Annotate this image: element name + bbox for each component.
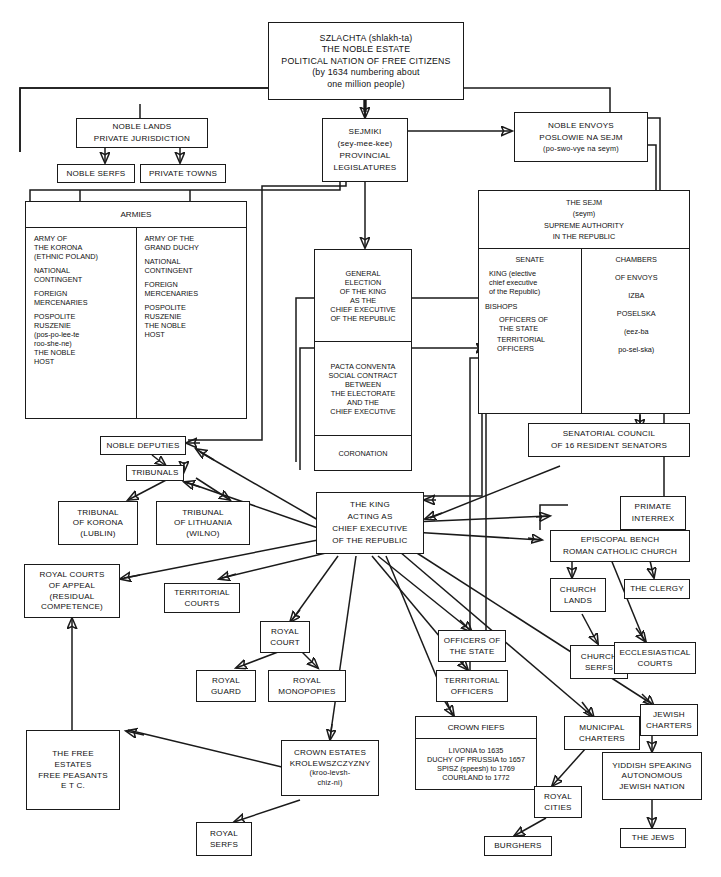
node-royal-guard: ROYAL GUARD (196, 670, 256, 702)
tribunal-lithuania-line-2: OF LITHUANIA (174, 518, 232, 528)
royal-court-line-2: COURT (270, 638, 300, 648)
army-grand-duchy-line-5: CONTINGENT (145, 266, 193, 275)
node-officers-of-the-state: OFFICERS OF THE STATE (438, 630, 506, 662)
node-the-clergy: THE CLERGY (624, 579, 690, 599)
army-korona-line-14: roo-she-ne) (34, 339, 72, 348)
army-korona-line-1: ARMY OF (34, 234, 67, 243)
sejmiki-line-2: (sey-mee-kee) (338, 139, 393, 149)
noble-envoys-line-1: NOBLE ENVOYS (548, 121, 614, 131)
sejm-chambers-column: CHAMBERSOF ENVOYSIZBAPOSELSKA(eez-bapo-s… (581, 249, 690, 413)
army-grand-duchy-line-8: MERCENARIES (145, 289, 199, 298)
sejm-chambers-line-4: POSELSKA (617, 309, 656, 318)
senate-territorial-officers-line-2: OFFICERS (497, 344, 534, 353)
node-royal-cities: ROYAL CITIES (534, 786, 582, 818)
ecclesiastical-courts-line-2: COURTS (637, 659, 672, 669)
army-grand-duchy-line-4: NATIONAL (145, 257, 181, 266)
royal-courts-appeal-line-1: ROYAL COURTS (39, 570, 104, 580)
crown-estates-line-3: (kroo-levsh- (310, 769, 351, 778)
armies-header: ARMIES (26, 202, 246, 228)
pacta-conventa-line-6: CHIEF EXECUTIVE (330, 407, 395, 416)
general-election-section: GENERALELECTIONOF THE KINGAS THECHIEF EX… (315, 250, 411, 342)
node-noble-envoys: NOBLE ENVOYS POSLOWIE NA SEJM (po-swo-vy… (514, 112, 648, 162)
node-territorial-officers: TERRITORIAL OFFICERS (436, 670, 508, 702)
army-grand-duchy-line-7: FOREIGN (145, 280, 178, 289)
king-acting-line-3: CHIEF EXECUTIVE (332, 524, 407, 534)
episcopal-bench-line-1: EPISCOPAL BENCH (581, 535, 660, 545)
crown-fiefs-list: LIVONIA to 1635DUCHY OF PRUSSIA to 1657S… (416, 739, 536, 789)
crown-fiefs-item-line-4: COURLAND to 1772 (442, 773, 509, 782)
senate-territorial-officers: TERRITORIALOFFICERS (483, 335, 577, 353)
army-korona-line-15: THE NOBLE (34, 348, 75, 357)
noble-lands-line-1: NOBLE LANDS (113, 122, 172, 132)
node-noble-serfs: NOBLE SERFS (57, 164, 135, 183)
senate-king-line-1: KING (elective (489, 269, 536, 278)
crown-estates-line-2: KROLEWSZCZYZNY (290, 759, 371, 769)
general-election-line-6: OF THE REPUBLIC (330, 314, 395, 323)
node-sejmiki: SEJMIKI (sey-mee-kee) PROVINCIAL LEGISLA… (322, 118, 408, 182)
node-tribunal-korona: TRIBUNAL OF KORONA (LUBLIN) (58, 501, 138, 545)
senate-title: SENATE (515, 255, 544, 264)
army-korona-line-16: HOST (34, 357, 54, 366)
army-grand-duchy-line-2: GRAND DUCHY (145, 243, 199, 252)
municipal-charters-line-1: MUNICIPAL (579, 723, 624, 733)
coronation-line-1: CORONATION (339, 449, 388, 458)
sejm-chambers-line-6: po-sel-ska) (618, 345, 654, 354)
senate-king-line-3: of the Republic) (489, 287, 540, 296)
node-ecclesiastical-courts: ECCLESIASTICAL COURTS (614, 642, 696, 674)
yiddish-nation-line-2: AUTONOMOUS (622, 771, 683, 781)
ecclesiastical-courts-line-1: ECCLESIASTICAL (619, 648, 690, 658)
king-acting-line-2: ACTING AS (348, 512, 393, 522)
army-korona-line-2: THE KORONA (34, 243, 82, 252)
king-acting-line-4: OF THE REPUBLIC (332, 536, 407, 546)
crown-fiefs-header-label: CROWN FIEFS (448, 723, 505, 732)
node-burghers: BURGHERS (484, 836, 552, 856)
royal-serfs-line-1: ROYAL (210, 829, 238, 839)
officers-of-state-line-2: THE STATE (449, 647, 494, 657)
royal-courts-appeal-line-2: OF APPEAL (49, 581, 95, 591)
general-election-line-2: ELECTION (345, 278, 382, 287)
free-estates-line-4: E T C. (61, 781, 85, 791)
node-primate-interrex: PRIMATE INTERREX (620, 496, 686, 530)
tribunal-korona-line-1: TRIBUNAL (77, 508, 119, 518)
army-korona-line-13: (pos-po-lee-te (34, 330, 79, 339)
episcopal-bench-line-2: ROMAN CATHOLIC CHURCH (563, 547, 677, 557)
crown-estates-line-1: CROWN ESTATES (294, 748, 366, 758)
territorial-officers-line-2: OFFICERS (451, 687, 494, 697)
noble-envoys-line-3: (po-swo-vye na seym) (543, 145, 619, 154)
armies-column-grand-duchy: ARMY OF THEGRAND DUCHY NATIONALCONTINGEN… (136, 228, 247, 418)
node-armies: ARMIES ARMY OFTHE KORONA(ETHNIC POLAND) … (25, 201, 247, 419)
royal-monopolies-line-2: MONOPOPIES (278, 687, 335, 697)
crown-estates-line-4: chiz-ni) (317, 779, 342, 788)
tribunal-lithuania-line-1: TRIBUNAL (182, 508, 224, 518)
church-serfs-line-1: CHURCH (581, 652, 617, 662)
territorial-courts-line-1: TERRITORIAL (174, 588, 230, 598)
node-jewish-charters: JEWISH CHARTERS (640, 704, 698, 736)
army-korona-line-9: MERCENARIES (34, 298, 88, 307)
node-king-acting-chief-executive: THE KING ACTING AS CHIEF EXECUTIVE OF TH… (316, 492, 424, 554)
szlachta-line-3: POLITICAL NATION OF FREE CITIZENS (281, 56, 450, 66)
noble-serfs-label: NOBLE SERFS (67, 169, 126, 179)
node-church-lands: CHURCH LANDS (550, 578, 606, 612)
royal-serfs-line-2: SERFS (210, 840, 238, 850)
sejm-header: THE SEJM(seym)SUPREME AUTHORITYIN THE RE… (479, 191, 689, 249)
crown-fiefs-header: CROWN FIEFS (416, 717, 536, 739)
general-election-line-1: GENERAL (346, 269, 381, 278)
senate-officers-of-state-line-2: THE STATE (499, 324, 538, 333)
senatorial-council-line-2: OF 16 RESIDENT SENATORS (551, 441, 667, 451)
royal-court-line-1: ROYAL (271, 627, 299, 637)
officers-of-state-line-1: OFFICERS OF (444, 636, 501, 646)
pacta-conventa-line-2: SOCIAL CONTRACT (328, 371, 397, 380)
armies-header-label: ARMIES (120, 210, 151, 219)
royal-monopolies-line-1: ROYAL (293, 676, 321, 686)
noble-deputies-label: NOBLE DEPUTIES (107, 441, 180, 451)
sejm-chambers-line-3: IZBA (628, 291, 644, 300)
church-serfs-line-2: SERFS (585, 663, 613, 673)
armies-column-korona: ARMY OFTHE KORONA(ETHNIC POLAND) NATIONA… (26, 228, 136, 418)
node-royal-courts-of-appeal: ROYAL COURTS OF APPEAL (RESIDUAL COMPETE… (24, 564, 120, 618)
tribunal-lithuania-line-3: (WILNO) (186, 529, 219, 539)
crown-fiefs-item-line-1: LIVONIA to 1635 (449, 746, 504, 755)
king-acting-line-1: THE KING (350, 500, 390, 510)
node-the-jews: THE JEWS (620, 828, 686, 848)
node-royal-monopolies: ROYAL MONOPOPIES (268, 670, 346, 702)
army-korona-line-3: (ETHNIC POLAND) (34, 252, 98, 261)
